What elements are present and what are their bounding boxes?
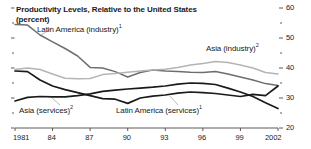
x-axis-tick-label: 87 <box>85 133 93 142</box>
series-label-asia-industry: Asia (industry)2 <box>206 44 259 53</box>
series-label-text: Asia (services) <box>19 106 70 115</box>
footnote-marker: 2 <box>70 104 73 110</box>
label-leader-line <box>170 96 178 105</box>
series-label-latin-america-services: Latin America (services)1 <box>116 106 202 115</box>
y-axis-tick-label: 30 <box>286 93 294 102</box>
y-axis-tick-label: 40 <box>286 63 294 72</box>
x-axis-tick-label: 2002 <box>265 133 281 142</box>
series-label-text: Asia (industry) <box>206 44 256 53</box>
label-leader-line <box>52 98 60 105</box>
x-axis-tick-label: 93 <box>160 133 168 142</box>
footnote-marker: 2 <box>256 42 259 48</box>
y-axis-tick-label: 50 <box>286 33 294 42</box>
y-axis-tick-label: 20 <box>286 123 294 132</box>
x-axis-tick-label: 84 <box>48 133 56 142</box>
series-label-text: Latin America (industry) <box>37 25 119 34</box>
plot-area <box>0 0 311 149</box>
x-axis-tick-label: 1981 <box>13 133 29 142</box>
footnote-marker: 1 <box>199 104 202 110</box>
productivity-levels-chart: Productivity Levels, Relative to the Uni… <box>0 0 311 149</box>
x-axis-tick-label: 96 <box>198 133 206 142</box>
series-label-text: Latin America (services) <box>116 106 199 115</box>
x-axis-tick-label: 99 <box>235 133 243 142</box>
series-label-latin-america-industry: Latin America (industry)1 <box>37 25 122 34</box>
x-axis-tick-label: 90 <box>123 133 131 142</box>
series-label-asia-services: Asia (services)2 <box>19 106 73 115</box>
y-axis-tick-label: 60 <box>286 3 294 12</box>
series-layer <box>15 25 278 109</box>
footnote-marker: 1 <box>119 23 122 29</box>
